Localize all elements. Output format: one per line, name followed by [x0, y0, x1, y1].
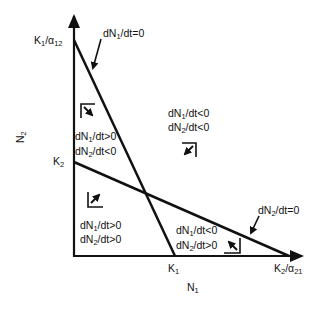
arrow-down-right-icon: [84, 107, 92, 115]
region-upper-right-line2: dN2/dt<0: [168, 121, 209, 135]
n2-isocline-label: dN2/dt=0: [258, 204, 299, 218]
n1-isocline-label: dN1/dt=0: [103, 27, 144, 41]
x-axis-title: N1: [187, 281, 199, 295]
region-upper-left: dN1/dt>0 dN2/dt<0: [75, 104, 116, 159]
k2-over-alpha21-label: K2/α21: [274, 262, 303, 276]
region-lower-left-line2: dN2/dt>0: [80, 233, 121, 247]
arrow-up-left-icon: [229, 242, 237, 250]
region-lower-right-line2: dN2/dt>0: [176, 239, 217, 253]
region-lower-left-line1: dN1/dt>0: [80, 219, 121, 233]
arrow-up-right-icon: [91, 195, 99, 203]
phase-plane-diagram: dN1/dt=0 dN2/dt=0 K1/α12 K2 K1 K2/α21 N1…: [0, 0, 322, 310]
k1-over-alpha12-label: K1/α12: [34, 34, 63, 48]
n2-isocline-pointer: [251, 216, 259, 233]
region-lower-right: dN1/dt<0 dN2/dt>0: [176, 224, 240, 253]
k2-label: K2: [53, 155, 64, 169]
region-lower-right-line1: dN1/dt<0: [176, 224, 217, 238]
n1-isocline-pointer: [93, 39, 101, 68]
arrow-down-left-icon: [185, 146, 193, 154]
k1-label: K1: [168, 262, 179, 276]
region-upper-left-line2: dN2/dt<0: [75, 145, 116, 159]
region-upper-left-line1: dN1/dt>0: [75, 130, 116, 144]
region-upper-right-line1: dN1/dt<0: [168, 107, 209, 121]
y-axis-title: N2: [14, 131, 28, 143]
region-upper-right: dN1/dt<0 dN2/dt<0: [168, 107, 209, 157]
region-lower-left: dN1/dt>0 dN2/dt>0: [80, 192, 121, 247]
